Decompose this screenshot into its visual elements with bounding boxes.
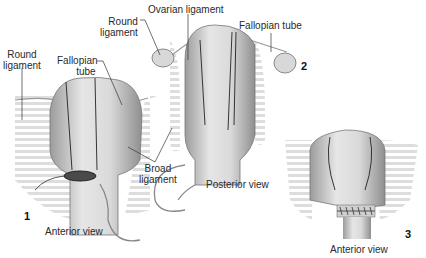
label-line: ligament bbox=[3, 60, 41, 71]
label-line: Round bbox=[3, 49, 41, 60]
panel-number-2: 2 bbox=[301, 60, 307, 72]
caption-panel-2: Posterior view bbox=[206, 179, 269, 190]
illustration-canvas bbox=[0, 0, 426, 258]
label-round-ligament-mid: Round ligament bbox=[100, 16, 138, 38]
caption-panel-3: Anterior view bbox=[330, 244, 388, 255]
label-line: ligament bbox=[100, 27, 138, 38]
panel-number-3: 3 bbox=[405, 228, 411, 240]
label-ovarian-ligament: Ovarian ligament bbox=[148, 4, 224, 15]
panel-3-anterior-repaired-uterus bbox=[285, 130, 418, 239]
panel-number-1: 1 bbox=[24, 210, 30, 222]
label-line: Broad bbox=[139, 163, 177, 174]
label-line: Fallopian bbox=[57, 55, 98, 66]
label-broad-ligament: Broad ligament bbox=[139, 163, 177, 185]
caption-panel-1: Anterior view bbox=[45, 226, 103, 237]
label-fallopian-tube-left: Fallopian tube bbox=[57, 55, 98, 77]
label-fallopian-tube-right: Fallopian tube bbox=[239, 20, 302, 31]
label-round-ligament-left: Round ligament bbox=[3, 49, 41, 71]
panel-1-anterior-uterus bbox=[15, 77, 156, 241]
label-line: ligament bbox=[139, 174, 177, 185]
label-line: Round bbox=[100, 16, 138, 27]
label-line: tube bbox=[57, 66, 98, 77]
